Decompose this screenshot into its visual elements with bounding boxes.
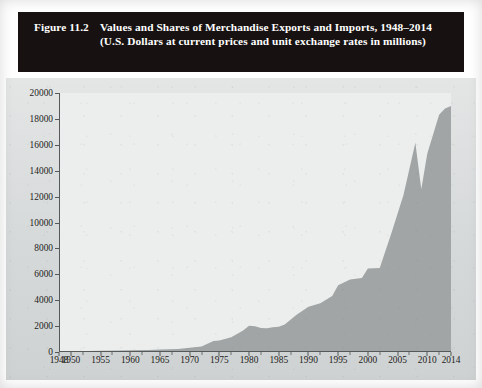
x-axis-tick-mark (338, 352, 339, 356)
x-axis-tick-mark (427, 352, 428, 356)
y-axis-tick-mark (55, 197, 59, 198)
x-axis-tick-mark (397, 352, 398, 356)
y-axis-line (59, 93, 60, 352)
x-axis-tick-label: 1965 (151, 355, 170, 365)
y-axis-tick-label: 10000 (30, 218, 53, 228)
x-axis-tick-mark (100, 352, 101, 356)
y-axis-tick-label: 12000 (30, 192, 53, 202)
x-axis-minor-tick-mark (201, 352, 202, 355)
x-axis-minor-tick-mark (260, 352, 261, 355)
x-axis-tick-label: 1990 (299, 355, 318, 365)
y-axis-tick-label: 14000 (30, 166, 53, 176)
x-axis-tick-label: 2010 (418, 355, 437, 365)
chart-plate: 0200040006000800010000120001400016000180… (6, 78, 476, 380)
x-axis-tick-mark (308, 352, 309, 356)
x-axis-tick-label: 1980 (240, 355, 259, 365)
series-area-merchandise-exports (59, 106, 451, 352)
x-axis-minor-tick-mark (171, 352, 172, 355)
x-axis-tick-mark (219, 352, 220, 356)
figure-number: Figure 11.2 (34, 20, 100, 34)
figure-title-banner: Figure 11.2 Values and Shares of Merchan… (18, 12, 464, 72)
x-axis-tick-label: 2005 (388, 355, 407, 365)
x-axis-minor-tick-mark (290, 352, 291, 355)
x-axis-tick-mark (278, 352, 279, 356)
y-axis-tick-mark (55, 248, 59, 249)
y-axis-tick-label: 2000 (34, 321, 53, 331)
area-chart-svg (59, 93, 451, 352)
x-axis-line (59, 351, 451, 352)
x-axis-minor-tick-mark (409, 352, 410, 355)
x-axis-tick-label: 1955 (91, 355, 110, 365)
figure-container: Figure 11.2 Values and Shares of Merchan… (0, 0, 482, 388)
y-axis-tick-label: 18000 (30, 114, 53, 124)
x-axis-tick-label: 1970 (180, 355, 199, 365)
y-axis-tick-label: 4000 (34, 295, 53, 305)
x-axis-tick-mark (189, 352, 190, 356)
x-axis-minor-tick-mark (379, 352, 380, 355)
y-axis-tick-mark (55, 300, 59, 301)
y-axis-tick-label: 16000 (30, 140, 53, 150)
x-axis-minor-tick-mark (112, 352, 113, 355)
x-axis-tick-mark (130, 352, 131, 356)
y-axis-tick-mark (55, 171, 59, 172)
x-axis-minor-tick-mark (231, 352, 232, 355)
plot-area: 0200040006000800010000120001400016000180… (59, 93, 451, 352)
x-axis-tick-label: 1985 (269, 355, 288, 365)
y-axis-tick-label: 6000 (34, 269, 53, 279)
y-axis-tick-mark (55, 93, 59, 94)
y-axis-tick-mark (55, 223, 59, 224)
x-axis-tick-label: 1975 (210, 355, 229, 365)
y-axis-tick-label: 8000 (34, 243, 53, 253)
x-axis-minor-tick-mark (320, 352, 321, 355)
figure-caption: Values and Shares of Merchandise Exports… (100, 20, 454, 48)
x-axis-minor-tick-mark (439, 352, 440, 355)
x-axis-tick-mark (367, 352, 368, 356)
x-axis-tick-mark (159, 352, 160, 356)
x-axis-tick-label: 2000 (358, 355, 377, 365)
y-axis-tick-mark (55, 326, 59, 327)
x-axis-tick-label: 1950 (62, 355, 81, 365)
y-axis-tick-mark (55, 274, 59, 275)
y-axis-tick-mark (55, 119, 59, 120)
x-axis-tick-mark (59, 352, 60, 356)
x-axis-tick-label: 2014 (442, 355, 461, 365)
x-axis-tick-mark (451, 352, 452, 356)
x-axis-tick-mark (249, 352, 250, 356)
y-axis-tick-label: 20000 (30, 88, 53, 98)
x-axis-tick-mark (70, 352, 71, 356)
x-axis-minor-tick-mark (82, 352, 83, 355)
y-axis-tick-mark (55, 145, 59, 146)
x-axis-minor-tick-mark (350, 352, 351, 355)
x-axis-tick-label: 1960 (121, 355, 140, 365)
x-axis-tick-label: 1995 (329, 355, 348, 365)
x-axis-minor-tick-mark (142, 352, 143, 355)
